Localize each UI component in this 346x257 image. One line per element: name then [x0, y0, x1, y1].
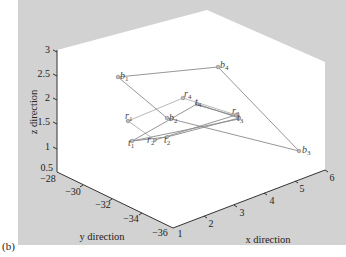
y-tick-label: −30 — [65, 186, 81, 197]
x-tick-label: 5 — [300, 183, 305, 194]
z-tick-label: 1.5 — [38, 116, 51, 127]
x-tick-label: 6 — [330, 172, 335, 183]
z-tick-label: 3 — [45, 44, 50, 55]
x-axis-title: x direction — [245, 234, 291, 245]
y-tick-label: −32 — [95, 199, 111, 210]
y-tick-label: −36 — [152, 227, 168, 238]
figure-canvas: 3 2.5 2 1.5 1 0.5 z direction −28 −30 −3… — [0, 0, 346, 257]
point-b3-marker — [297, 149, 301, 153]
x-tick-label: 2 — [209, 218, 214, 229]
panel-label: (b) — [2, 240, 15, 252]
z-tick-label: 1 — [45, 141, 50, 152]
z-tick-label: 0.5 — [41, 162, 54, 173]
y-axis-title: y direction — [79, 231, 125, 242]
x-tick-label: 1 — [178, 228, 183, 239]
z-axis-title: z direction — [28, 89, 39, 134]
x-tick-label: 3 — [240, 207, 245, 218]
y-tick-label: −34 — [123, 213, 139, 224]
z-tick-label: 2.5 — [38, 68, 51, 79]
z-tick-label: 2 — [45, 92, 50, 103]
x-tick-label: 4 — [270, 195, 275, 206]
y-tick-label: −28 — [40, 173, 56, 184]
